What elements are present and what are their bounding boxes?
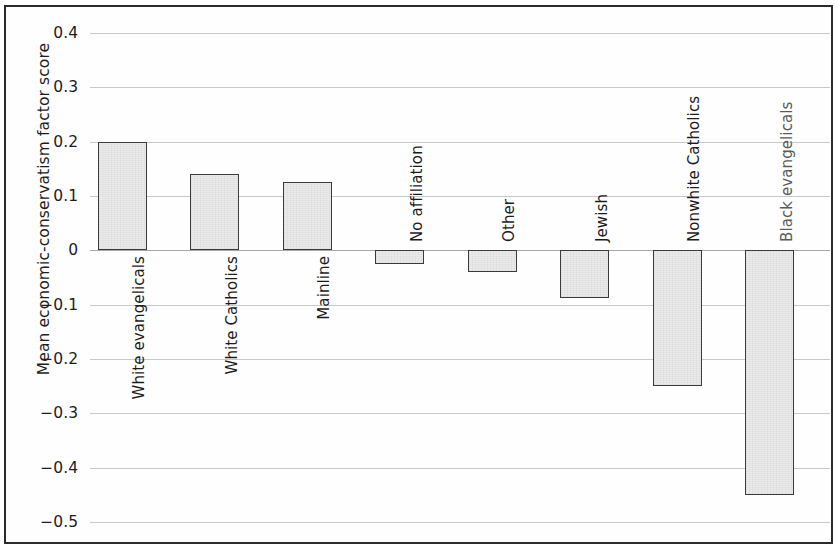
y-tick-label: 0 xyxy=(8,241,78,259)
bar xyxy=(653,250,702,386)
chart-figure: Mean economic-conservatism factor score … xyxy=(0,0,838,553)
y-tick-label: 0.2 xyxy=(8,133,78,151)
bar xyxy=(283,182,332,250)
y-tick-label: −0.2 xyxy=(8,350,78,368)
y-tick-label: −0.3 xyxy=(8,404,78,422)
gridline xyxy=(90,305,830,306)
y-tick-label: −0.1 xyxy=(8,296,78,314)
gridline xyxy=(90,413,830,414)
bar xyxy=(190,174,239,250)
category-label: White evangelicals xyxy=(130,256,148,400)
bar xyxy=(375,250,424,264)
gridline xyxy=(90,33,830,34)
y-tick-label: 0.4 xyxy=(8,24,78,42)
bar xyxy=(98,142,147,251)
bar xyxy=(745,250,794,495)
bar xyxy=(468,250,517,272)
category-label: Black evangelicals xyxy=(778,102,796,242)
y-tick-label: 0.3 xyxy=(8,78,78,96)
gridline xyxy=(90,522,830,523)
category-label: No affiliation xyxy=(408,146,426,243)
gridline xyxy=(90,359,830,360)
gridline xyxy=(90,87,830,88)
gridline xyxy=(90,250,830,251)
category-label: Other xyxy=(500,199,518,242)
gridline xyxy=(90,468,830,469)
y-tick-label: 0.1 xyxy=(8,187,78,205)
category-label: White Catholics xyxy=(223,256,241,375)
category-label: Mainline xyxy=(315,256,333,320)
gridline xyxy=(90,142,830,143)
category-label: Nonwhite Catholics xyxy=(685,96,703,242)
plot-area: 0.40.30.20.10−0.1−0.2−0.3−0.4−0.5 White … xyxy=(90,14,830,534)
y-axis-title: Mean economic-conservatism factor score xyxy=(35,19,53,399)
y-tick-label: −0.5 xyxy=(8,513,78,531)
category-label: Jewish xyxy=(593,194,611,242)
bar xyxy=(560,250,609,297)
y-tick-label: −0.4 xyxy=(8,459,78,477)
